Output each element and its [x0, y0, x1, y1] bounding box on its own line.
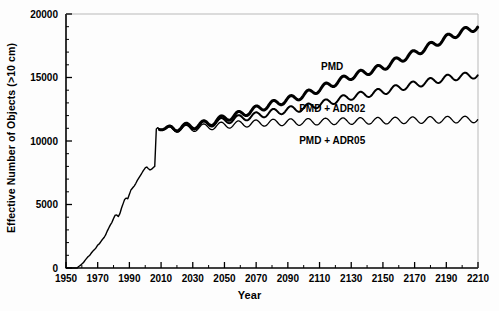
- svg-text:2090: 2090: [277, 273, 300, 284]
- chart-plot-area: 1950197019902010203020502070209021102130…: [0, 0, 499, 311]
- svg-text:20000: 20000: [30, 9, 58, 20]
- svg-text:1970: 1970: [87, 273, 110, 284]
- svg-text:2170: 2170: [403, 273, 426, 284]
- svg-text:2210: 2210: [467, 273, 490, 284]
- svg-text:15000: 15000: [30, 72, 58, 83]
- svg-text:2030: 2030: [182, 273, 205, 284]
- series-annotation-pmd-adr02: PMD + ADR02: [299, 103, 365, 114]
- series-annotation-pmd: PMD: [321, 61, 343, 72]
- svg-text:2010: 2010: [150, 273, 173, 284]
- svg-text:2050: 2050: [213, 273, 236, 284]
- series-annotation-pmd-adr05: PMD + ADR05: [299, 135, 365, 146]
- svg-text:0: 0: [52, 263, 58, 274]
- chart-figure: 1950197019902010203020502070209021102130…: [0, 0, 499, 311]
- svg-text:2110: 2110: [309, 273, 331, 284]
- svg-text:5000: 5000: [36, 199, 59, 210]
- svg-text:1950: 1950: [55, 273, 78, 284]
- svg-text:10000: 10000: [30, 136, 58, 147]
- y-axis-title: Effective Number of Objects (>10 cm): [5, 42, 17, 232]
- x-axis-title: Year: [0, 289, 499, 301]
- svg-text:2070: 2070: [245, 273, 268, 284]
- svg-text:1990: 1990: [118, 273, 141, 284]
- data-series: [66, 27, 478, 268]
- svg-text:2150: 2150: [372, 273, 395, 284]
- svg-text:2190: 2190: [435, 273, 458, 284]
- tick-labels: 1950197019902010203020502070209021102130…: [30, 9, 489, 284]
- y-axis-title-wrap: Effective Number of Objects (>10 cm): [0, 0, 22, 275]
- svg-text:2130: 2130: [340, 273, 363, 284]
